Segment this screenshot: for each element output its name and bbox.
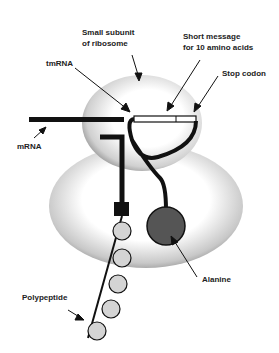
label-short-message-1: Short message — [183, 32, 241, 41]
mrna-strand — [29, 117, 124, 122]
label-small-subunit-2: of ribosome — [82, 39, 128, 48]
alanine-circle — [147, 207, 185, 245]
label-mrna: mRNA — [17, 142, 42, 151]
label-polypeptide: Polypeptide — [22, 293, 68, 302]
label-tmrna: tmRNA — [46, 59, 73, 68]
label-short-message-2: for 10 amino acids — [183, 43, 254, 52]
label-alanine: Alanine — [202, 275, 231, 284]
label-stop-codon: Stop codon — [222, 69, 266, 78]
attachment-block — [114, 202, 129, 216]
label-small-subunit-1: Small subunit — [82, 28, 135, 37]
short-message-band — [134, 116, 196, 122]
tmrna-diagram: Small subunit of ribosome Short message … — [0, 0, 279, 353]
